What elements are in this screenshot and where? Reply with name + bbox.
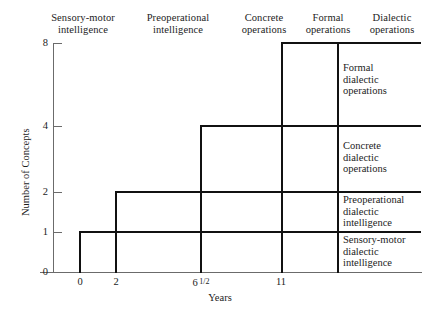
band-label-line2: dialectic <box>343 206 404 218</box>
y-tick-label-8: 8 <box>34 37 48 48</box>
x-tick-label-6-whole: 6 <box>193 277 198 288</box>
band-rule-y4 <box>283 125 421 127</box>
x-tick-label-0: 0 <box>60 276 100 287</box>
y-tick-1 <box>54 232 62 233</box>
band-label-line3: intelligence <box>343 257 405 269</box>
column-header-line1: Dialectic <box>355 12 429 24</box>
x-axis-title: Years <box>160 292 280 303</box>
band-label-line3: operations <box>343 85 387 97</box>
band-rule-top <box>337 42 421 44</box>
dialectic-column-divider <box>337 42 339 273</box>
x-tick-label-11: 11 <box>261 276 301 287</box>
y-axis-spine <box>53 43 54 273</box>
figure-canvas: Sensory-motor intelligence Preoperationa… <box>0 0 429 320</box>
band-rule-y1 <box>117 231 421 233</box>
band-label-line2: dialectic <box>343 246 405 258</box>
y-tick-2 <box>54 192 62 193</box>
band-label-sensory-motor-dialectic: Sensory-motor dialectic intelligence <box>343 234 405 269</box>
band-label-line2: dialectic <box>343 152 387 164</box>
band-label-line3: intelligence <box>343 217 404 229</box>
x-tick-label-half: 1/2 <box>199 277 209 286</box>
step-run-y1 <box>79 231 117 233</box>
step-riser-x6-half <box>200 125 202 273</box>
column-header-line2: operations <box>355 24 429 36</box>
column-header-line1: Preoperational <box>128 12 228 24</box>
x-tick-label-6-half: 61/2 <box>179 276 223 288</box>
band-label-concrete-dialectic: Concrete dialectic operations <box>343 140 387 175</box>
column-header-line2: intelligence <box>128 24 228 36</box>
y-tick-label-1: 1 <box>34 226 48 237</box>
band-label-line1: Preoperational <box>343 194 404 206</box>
band-label-line1: Formal <box>343 62 387 74</box>
step-riser-x11 <box>281 42 283 273</box>
y-tick-4 <box>54 126 62 127</box>
column-header-preoperational: Preoperational intelligence <box>128 12 228 35</box>
column-header-line2: intelligence <box>33 24 133 36</box>
band-rule-y2 <box>202 191 421 193</box>
step-run-y4 <box>200 125 283 127</box>
column-header-line1: Sensory-motor <box>33 12 133 24</box>
x-tick-label-2: 2 <box>96 276 136 287</box>
x-axis-spine <box>40 272 422 273</box>
band-label-line1: Concrete <box>343 140 387 152</box>
y-tick-label-4: 4 <box>34 120 48 131</box>
band-label-line1: Sensory-motor <box>343 234 405 246</box>
step-run-y8 <box>281 42 339 44</box>
y-tick-8 <box>54 43 62 44</box>
y-tick-label-0: 0 <box>34 266 48 277</box>
y-axis-title: Number of Concepts <box>20 129 31 216</box>
step-riser-x0 <box>79 231 81 273</box>
step-run-y2 <box>115 191 202 193</box>
column-header-dialectic: Dialectic operations <box>355 12 429 35</box>
band-label-line3: operations <box>343 163 387 175</box>
band-label-line2: dialectic <box>343 74 387 86</box>
band-label-formal-dialectic: Formal dialectic operations <box>343 62 387 97</box>
y-tick-0 <box>54 272 62 273</box>
band-label-preoperational-dialectic: Preoperational dialectic intelligence <box>343 194 404 229</box>
column-header-sensory-motor: Sensory-motor intelligence <box>33 12 133 35</box>
y-tick-label-2: 2 <box>34 186 48 197</box>
